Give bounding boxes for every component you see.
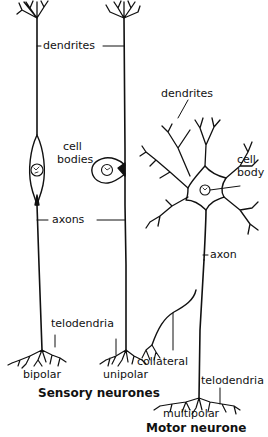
label-cell-body-line2: body	[236, 167, 265, 179]
bipolar-neurone	[8, 1, 66, 368]
label-axon-motor: axon	[209, 249, 238, 261]
label-collateral: collateral	[136, 356, 189, 368]
sensory-neurones-title: Sensory neurones	[37, 387, 161, 399]
label-telodendria-motor: telodendria	[200, 375, 265, 387]
label-telodendria-sensory: telodendria	[50, 318, 115, 330]
unipolar-neurone	[92, 1, 146, 366]
label-axons: axons	[51, 214, 85, 226]
label-cell-bodies-line1: cell	[62, 141, 83, 153]
label-cell-body-line1: cell	[236, 154, 257, 166]
neurone-diagram: dendrites cell bodies axons telodendria …	[0, 0, 268, 437]
label-bipolar: bipolar	[22, 369, 62, 381]
label-unipolar: unipolar	[102, 369, 149, 381]
label-dendrites-motor: dendrites	[160, 88, 214, 100]
sensory-label-lines	[37, 46, 125, 355]
label-dendrites-sensory: dendrites	[42, 40, 96, 52]
label-multipolar: multipolar	[162, 408, 220, 420]
motor-neurone-title: Motor neurone	[145, 422, 247, 434]
label-cell-bodies-line2: bodies	[56, 154, 94, 166]
